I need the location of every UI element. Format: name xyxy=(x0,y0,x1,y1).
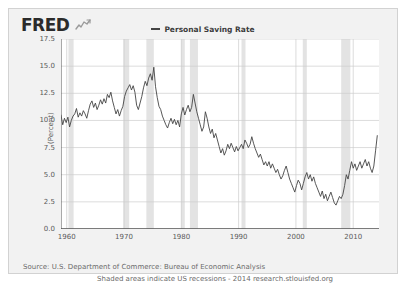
chart-canvas xyxy=(61,39,379,229)
gridlines-group xyxy=(61,39,379,229)
x-tick-1990: 1990 xyxy=(219,233,259,241)
y-tick-12.5: 12.5 xyxy=(15,89,55,97)
chart-legend: Personal Saving Rate xyxy=(9,17,397,36)
legend-label: Personal Saving Rate xyxy=(164,25,254,34)
y-tick-0.0: 0.0 xyxy=(15,225,55,233)
y-tick-17.5: 17.5 xyxy=(15,35,55,43)
plot-wrapper: (Percent) 0.02.55.07.510.012.515.017.5 1… xyxy=(61,39,379,229)
x-tick-2000: 2000 xyxy=(276,233,316,241)
chart-header: FRED Personal Saving Rate xyxy=(9,9,397,39)
x-tick-1970: 1970 xyxy=(104,233,144,241)
series-group xyxy=(61,67,377,205)
axis-lines-group xyxy=(61,39,379,229)
legend-item-personal-saving-rate: Personal Saving Rate xyxy=(151,25,254,34)
y-tick-10.0: 10.0 xyxy=(15,116,55,124)
x-tick-2010: 2010 xyxy=(333,233,373,241)
x-tick-1980: 1980 xyxy=(161,233,201,241)
y-tick-7.5: 7.5 xyxy=(15,144,55,152)
y-tick-2.5: 2.5 xyxy=(15,198,55,206)
recession-note-text: Shaded areas indicate US recessions - 20… xyxy=(9,275,397,283)
source-text: Source: U.S. Department of Commerce: Bur… xyxy=(23,263,265,271)
legend-color-swatch xyxy=(151,28,160,30)
fred-chart-card: FRED Personal Saving Rate (Percent) 0.02… xyxy=(8,8,398,274)
y-tick-5.0: 5.0 xyxy=(15,171,55,179)
y-tick-15.0: 15.0 xyxy=(15,62,55,70)
recession-bands-group xyxy=(68,39,350,229)
x-tick-1960: 1960 xyxy=(47,233,87,241)
